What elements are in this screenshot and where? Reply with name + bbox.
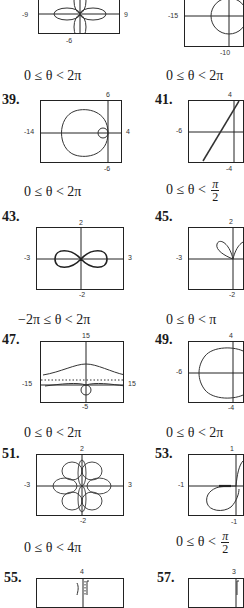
rose-curve-icon <box>39 0 120 34</box>
graph-38 <box>184 0 244 47</box>
tick-top: 2 <box>229 218 233 225</box>
tick-top: 4 <box>229 332 233 339</box>
graph-43 <box>36 227 124 290</box>
conchoid-curve-icon <box>41 342 124 403</box>
limacon-curve-icon <box>189 342 244 403</box>
exercise-number: 41. <box>155 92 173 108</box>
tick-left: -6 <box>176 368 182 375</box>
range-label: 0 ≤ θ < 4π <box>24 540 81 556</box>
tick-top: 3 <box>232 568 236 575</box>
tick-bottom: -2 <box>80 517 86 524</box>
graph-53 <box>188 454 244 516</box>
tick-bottom: -10 <box>220 49 230 56</box>
tick-right: 9 <box>124 11 128 18</box>
tick-right: 4 <box>126 128 130 135</box>
tick-top: 15 <box>82 332 90 339</box>
range-label: 0 ≤ θ < 2π <box>24 68 81 84</box>
graph-37 <box>38 0 120 34</box>
range-label: −2π ≤ θ < 2π <box>18 312 90 328</box>
tick-bottom: -2 <box>79 291 85 298</box>
exercise-number: 49. <box>155 332 173 348</box>
exercise-number: 45. <box>155 209 173 225</box>
tick-right: 3 <box>128 254 132 261</box>
tick-top: 4 <box>228 91 232 98</box>
tick-right: 15 <box>128 380 136 387</box>
range-label: 0 ≤ θ < π2 <box>176 530 229 555</box>
petal-curve-icon <box>189 228 244 290</box>
exercise-number: 51. <box>2 446 20 462</box>
exercise-number: 47. <box>2 332 20 348</box>
rose-curve-icon <box>37 455 124 516</box>
circle-curve-icon <box>185 0 244 47</box>
tick-bottom: -6 <box>104 165 110 172</box>
range-label: 0 ≤ θ < π2 <box>166 178 219 203</box>
range-label: 0 ≤ θ < π <box>166 312 216 328</box>
tick-bottom: -4 <box>228 404 234 411</box>
tick-top: 1 <box>230 445 234 452</box>
exercise-number: 43. <box>2 209 20 225</box>
graph-39 <box>40 100 122 163</box>
partial-curve-icon <box>37 579 124 608</box>
tick-bottom: -4 <box>226 165 232 172</box>
limacon-curve-icon <box>41 101 122 163</box>
tick-left: -15 <box>168 12 178 19</box>
tick-left: -3 <box>176 254 182 261</box>
range-label: 0 ≤ θ < 2π <box>24 184 81 200</box>
tick-left: -15 <box>22 380 32 387</box>
tick-bottom: -6 <box>66 37 72 44</box>
graph-55 <box>36 578 124 608</box>
graph-47 <box>40 341 124 403</box>
partial-curve-icon <box>189 579 244 608</box>
tick-top: 2 <box>80 445 84 452</box>
exercise-number: 53. <box>155 446 173 462</box>
range-label: 0 ≤ θ < 2π <box>166 68 223 84</box>
spiral-curve-icon <box>189 455 244 516</box>
tick-left: -6 <box>176 127 182 134</box>
tick-bottom: -1 <box>231 518 237 525</box>
range-label: 0 ≤ θ < 2π <box>24 425 81 441</box>
fraction: π2 <box>221 530 229 555</box>
tick-top: 2 <box>79 219 83 226</box>
tick-right: 3 <box>128 481 132 488</box>
tick-left: -3 <box>24 481 30 488</box>
graph-57 <box>188 578 244 608</box>
line-curve-icon <box>189 101 244 163</box>
tick-bottom: -5 <box>82 403 88 410</box>
tick-top: 6 <box>106 91 110 98</box>
tick-top: 4 <box>80 568 84 575</box>
tick-bottom: -2 <box>229 291 235 298</box>
tick-left: -3 <box>24 254 30 261</box>
exercise-number: 57. <box>157 570 175 586</box>
graph-45 <box>188 227 244 290</box>
graph-41 <box>188 100 244 163</box>
exercise-number: 55. <box>4 570 22 586</box>
tick-left: -1 <box>178 481 184 488</box>
graph-51 <box>36 454 124 516</box>
lemniscate-curve-icon <box>37 228 124 290</box>
fraction: π2 <box>211 178 219 203</box>
exercise-number: 39. <box>2 92 20 108</box>
graph-49 <box>188 341 244 403</box>
tick-left: -9 <box>22 11 28 18</box>
range-label: 0 ≤ θ < 2π <box>166 425 223 441</box>
tick-left: -14 <box>24 128 34 135</box>
